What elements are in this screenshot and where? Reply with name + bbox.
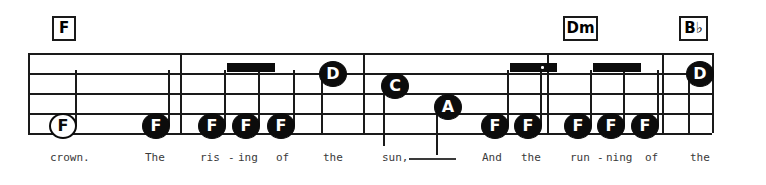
note-4-pitch-label: F bbox=[241, 118, 252, 134]
note-1-stem bbox=[75, 70, 77, 126]
note-11[interactable]: F bbox=[564, 113, 592, 139]
lyric-of-1: of bbox=[276, 152, 289, 163]
beam-2 bbox=[510, 63, 557, 72]
note-12-pitch-label: F bbox=[606, 118, 617, 134]
barline-2 bbox=[363, 53, 365, 133]
note-2-stem bbox=[168, 70, 170, 126]
note-1-pitch-label: F bbox=[58, 118, 69, 134]
note-6-pitch-label: D bbox=[326, 66, 339, 82]
beam-2-dot bbox=[541, 66, 544, 69]
note-3-stem bbox=[224, 70, 226, 126]
melisma-sun bbox=[409, 158, 456, 160]
note-14-pitch-label: D bbox=[693, 66, 706, 82]
barline-4 bbox=[662, 53, 664, 133]
note-5-stem bbox=[293, 70, 295, 126]
lyric-ing-1: ing bbox=[238, 152, 258, 163]
note-4[interactable]: F bbox=[232, 113, 260, 139]
lyric-ris: ris bbox=[200, 152, 220, 163]
barline-1 bbox=[180, 53, 182, 133]
lyric-the-2: the bbox=[323, 152, 343, 163]
note-8[interactable]: A bbox=[434, 94, 462, 120]
note-12[interactable]: F bbox=[597, 113, 625, 139]
note-12-stem bbox=[623, 70, 625, 126]
note-5-pitch-label: F bbox=[276, 118, 287, 134]
note-1[interactable]: F bbox=[49, 113, 77, 139]
chord-dm-label: Dm bbox=[566, 21, 594, 36]
sheet-music-system: FDmB♭FFFFFDCAFFFFFDcrown.Theris-ingofthe… bbox=[0, 0, 766, 185]
note-9-pitch-label: F bbox=[490, 118, 501, 134]
note-7-pitch-label: C bbox=[389, 78, 401, 94]
note-10[interactable]: F bbox=[514, 113, 542, 139]
chord-bb-label: B♭ bbox=[684, 21, 703, 36]
chord-f-1-label: F bbox=[59, 21, 69, 36]
note-13[interactable]: F bbox=[631, 113, 659, 139]
note-13-pitch-label: F bbox=[640, 118, 651, 134]
note-9[interactable]: F bbox=[481, 113, 509, 139]
staff-left-edge bbox=[28, 53, 30, 133]
note-7[interactable]: C bbox=[381, 73, 409, 99]
chord-dm[interactable]: Dm bbox=[563, 16, 598, 41]
staff-line-3 bbox=[28, 93, 712, 95]
note-8-pitch-label: A bbox=[442, 99, 454, 115]
lyric-hyph-2: - bbox=[597, 152, 604, 163]
chord-bb[interactable]: B♭ bbox=[679, 16, 708, 41]
lyric-crown: crown. bbox=[50, 152, 90, 163]
lyric-and: And bbox=[482, 152, 502, 163]
lyric-the-3: the bbox=[521, 152, 541, 163]
lyric-of-2: of bbox=[645, 152, 658, 163]
staff-right-edge bbox=[712, 53, 714, 133]
note-3-pitch-label: F bbox=[207, 118, 218, 134]
note-11-stem bbox=[590, 70, 592, 126]
beam-3 bbox=[593, 63, 641, 72]
chord-f-1[interactable]: F bbox=[52, 16, 76, 41]
note-5[interactable]: F bbox=[267, 113, 295, 139]
lyric-ning: ning bbox=[606, 152, 633, 163]
lyric-the-1: The bbox=[145, 152, 165, 163]
lyric-run: run bbox=[570, 152, 590, 163]
note-4-stem bbox=[258, 70, 260, 126]
lyric-the-4: the bbox=[690, 152, 710, 163]
note-13-stem bbox=[657, 70, 659, 126]
staff-line-1 bbox=[28, 53, 712, 55]
note-2-pitch-label: F bbox=[151, 118, 162, 134]
lyric-hyph-1: - bbox=[228, 152, 235, 163]
note-2[interactable]: F bbox=[142, 113, 170, 139]
note-11-pitch-label: F bbox=[573, 118, 584, 134]
lyric-sun: sun, bbox=[382, 152, 409, 163]
note-10-pitch-label: F bbox=[523, 118, 534, 134]
note-3[interactable]: F bbox=[198, 113, 226, 139]
note-10-stem bbox=[540, 70, 542, 126]
note-14[interactable]: D bbox=[686, 61, 714, 87]
note-9-stem bbox=[507, 70, 509, 126]
staff-line-2 bbox=[28, 73, 712, 75]
beam-1 bbox=[227, 63, 275, 72]
note-6[interactable]: D bbox=[319, 61, 347, 87]
